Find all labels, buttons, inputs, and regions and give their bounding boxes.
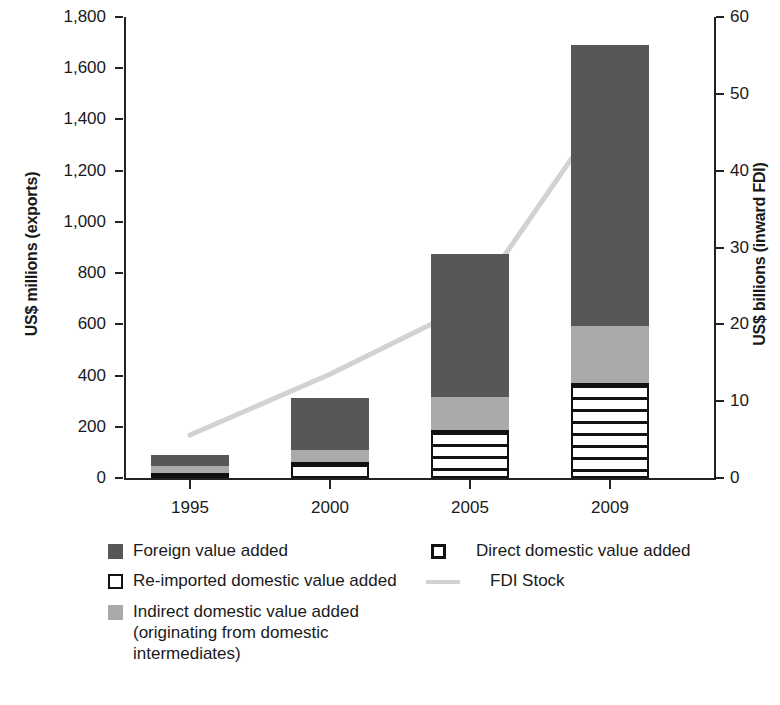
y-axis-left-tick-label: 1,400 [16,110,106,127]
legend-label-fdi-stock: FDI Stock [490,570,565,591]
y-axis-left-tick-label: 1,800 [16,8,106,25]
bar-2000[interactable] [291,17,369,478]
bar-segment-direct-domestic [571,383,649,478]
y-axis-right-tick-label: 50 [730,85,780,102]
y-axis-right-tick-label: 40 [730,162,780,179]
y-axis-right-tick [716,93,724,95]
y-axis-left-tick-label: 1,000 [16,213,106,230]
y-axis-right-tick-label: 30 [730,239,780,256]
y-axis-right-tick [716,400,724,402]
x-axis-tick [189,480,191,489]
y-axis-left-tick [115,272,123,274]
bar-segment-foreign [431,254,509,397]
x-axis-tick-label: 2005 [415,498,525,518]
bar-segment-indirect-domestic [291,450,369,462]
x-axis-tick-label: 2000 [275,498,385,518]
fdi-stock-polyline [190,103,610,435]
y-axis-right-tick-label: 20 [730,315,780,332]
bar-2009[interactable] [571,17,649,478]
legend-column-right: Direct domestic value added FDI Stock [426,540,766,601]
bar-segment-foreign [291,398,369,450]
y-axis-left-tick-label: 0 [16,469,106,486]
y-axis-left-tick [115,118,123,120]
x-axis-tick-label: 2009 [555,498,665,518]
bar-1995[interactable] [151,17,229,478]
bar-segment-foreign [571,45,649,326]
striped-square-icon [431,544,446,559]
y-axis-right-tick [716,16,724,18]
y-axis-right-tick-label: 60 [730,8,780,25]
legend-label-re-imported-domestic-value-added: Re-imported domestic value added [133,570,397,591]
legend-item-foreign-value-added[interactable]: Foreign value added [108,540,408,561]
bar-segment-direct-domestic [291,462,369,478]
bar-segment-indirect-domestic [571,326,649,383]
dark-gray-square-icon [108,544,123,559]
y-axis-left-tick [115,221,123,223]
legend-item-re-imported-domestic-value-added[interactable]: Re-imported domestic value added [108,570,408,591]
x-axis-tick [469,480,471,489]
y-axis-right-tick-label: 0 [730,469,780,486]
legend-item-indirect-domestic-value-added[interactable]: Indirect domestic value added (originati… [108,601,408,665]
y-axis-right-tick [716,247,724,249]
legend-column-left: Foreign value added Re-imported domestic… [108,540,408,673]
plot-area [124,17,632,478]
y-axis-left-tick [115,426,123,428]
y-axis-left-tick [115,170,123,172]
legend-item-direct-domestic-value-added[interactable]: Direct domestic value added [426,540,766,561]
legend-item-fdi-stock[interactable]: FDI Stock [426,570,766,591]
x-axis-tick [609,480,611,489]
legend-label-foreign-value-added: Foreign value added [133,540,288,561]
y-axis-left-tick [115,323,123,325]
y-axis-left-tick-label: 600 [16,315,106,332]
y-axis-left-tick-label: 1,600 [16,59,106,76]
x-axis-tick-label: 1995 [135,498,245,518]
y-axis-left-tick-label: 800 [16,264,106,281]
y-axis-right-tick-label: 10 [730,392,780,409]
light-gray-square-icon [108,605,123,620]
y-axis-right-tick [716,323,724,325]
y-axis-right-line [714,17,716,480]
white-outline-square-icon [108,574,123,589]
legend-label-direct-domestic-value-added: Direct domestic value added [476,540,691,561]
y-axis-left-tick [115,67,123,69]
y-axis-left-tick [115,16,123,18]
legend-label-indirect-domestic-value-added: Indirect domestic value added (originati… [133,601,408,665]
bar-segment-indirect-domestic [151,466,229,473]
bar-segment-direct-domestic [431,430,509,478]
y-axis-left-tick [115,375,123,377]
gray-line-icon [426,580,460,584]
y-axis-left-tick-label: 200 [16,418,106,435]
bar-segment-direct-domestic [151,473,229,478]
bar-segment-indirect-domestic [431,397,509,430]
y-axis-right-tick [716,477,724,479]
y-axis-left-tick-label: 400 [16,367,106,384]
x-axis-tick [329,480,331,489]
x-axis-line [124,478,716,480]
bar-segment-foreign [151,455,229,466]
y-axis-left-tick-label: 1,200 [16,162,106,179]
y-axis-right-tick [716,170,724,172]
bar-2005[interactable] [431,17,509,478]
y-axis-left-tick [115,477,123,479]
